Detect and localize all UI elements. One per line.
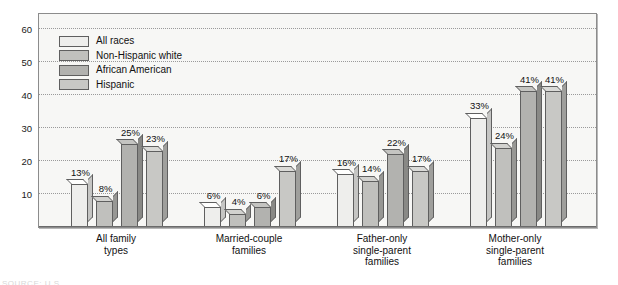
bar [520, 91, 537, 227]
x-category-label-line: families [322, 256, 442, 268]
x-category-label-line: single-parent [455, 245, 575, 257]
bar-side-face [163, 141, 168, 222]
bar-front-face [204, 207, 221, 227]
bar [387, 154, 404, 227]
y-tick-label: 10 [2, 190, 32, 200]
x-category-label-line: All family [56, 233, 176, 245]
bar [71, 184, 88, 227]
bar [121, 144, 138, 227]
bar-value-label: 41% [516, 75, 543, 85]
bar-front-face [279, 171, 296, 227]
bar-value-label: 6% [250, 191, 277, 201]
bar-value-label: 25% [117, 128, 144, 138]
y-tick-label: 60 [2, 25, 32, 35]
bar-value-label: 33% [466, 101, 493, 111]
legend-label-all-races: All races [96, 36, 134, 46]
bar-side-face [271, 197, 276, 222]
bar-front-face [495, 148, 512, 227]
bar-front-face [520, 91, 537, 227]
x-category-label: Father-onlysingle-parentfamilies [322, 233, 442, 268]
bar-side-face [296, 161, 301, 222]
x-category-label-line: single-parent [322, 245, 442, 257]
gridline [39, 94, 596, 95]
legend-item: Non-Hispanic white [59, 49, 182, 64]
x-category-label-line: Married-couple [189, 233, 309, 245]
bar-chart: 102030405060 13%8%25%23%6%4%6%17%16%14%2… [0, 0, 618, 285]
bar-value-label: 14% [358, 164, 385, 174]
bar-value-label: 22% [383, 138, 410, 148]
y-tick-label: 40 [2, 91, 32, 101]
bar-side-face [379, 171, 384, 222]
bar-side-face [429, 161, 434, 222]
bar-side-face [562, 81, 567, 222]
bar-front-face [96, 201, 113, 227]
legend-swatch-non-hispanic-white [59, 50, 89, 61]
legend: All races Non-Hispanic white African Ame… [59, 34, 182, 92]
legend-item: Hispanic [59, 78, 182, 93]
bar [495, 148, 512, 227]
x-axis-baseline [39, 226, 596, 227]
bar-value-label: 16% [333, 158, 360, 168]
x-category-label: Married-couplefamilies [189, 233, 309, 256]
bar-value-label: 24% [491, 131, 518, 141]
plot-frame: 13%8%25%23%6%4%6%17%16%14%22%17%33%24%41… [38, 13, 597, 228]
bar-value-label: 17% [408, 154, 435, 164]
x-category-label-line: types [56, 245, 176, 257]
bar-value-label: 17% [275, 154, 302, 164]
bar-front-face [121, 144, 138, 227]
bar-front-face [387, 154, 404, 227]
bar-side-face [487, 108, 492, 222]
bar-value-label: 41% [541, 75, 568, 85]
bar-side-face [113, 191, 118, 222]
legend-label-african-american: African American [96, 65, 172, 75]
bar-front-face [545, 91, 562, 227]
bar-front-face [146, 151, 163, 227]
bar-front-face [470, 118, 487, 227]
gridline [39, 28, 596, 29]
x-category-label-line: Mother-only [455, 233, 575, 245]
bar-value-label: 13% [67, 168, 94, 178]
legend-label-non-hispanic-white: Non-Hispanic white [96, 51, 182, 61]
bar-front-face [254, 207, 271, 227]
bar [412, 171, 429, 227]
bar [470, 118, 487, 227]
bar-front-face [337, 174, 354, 227]
bar-front-face [71, 184, 88, 227]
y-tick-label: 30 [2, 124, 32, 134]
bar [254, 207, 271, 227]
bar [362, 181, 379, 227]
bar [337, 174, 354, 227]
bar-value-label: 8% [92, 184, 119, 194]
bar [279, 171, 296, 227]
y-tick-label: 20 [2, 157, 32, 167]
bar-value-label: 6% [200, 191, 227, 201]
x-category-label-line: families [189, 245, 309, 257]
legend-swatch-hispanic [59, 79, 89, 90]
bar [545, 91, 562, 227]
legend-item: African American [59, 63, 182, 78]
legend-swatch-african-american [59, 65, 89, 76]
y-tick-label: 50 [2, 58, 32, 68]
bar [204, 207, 221, 227]
legend-label-hispanic: Hispanic [96, 80, 134, 90]
legend-swatch-all-races [59, 36, 89, 47]
bar-front-face [362, 181, 379, 227]
x-category-label: All familytypes [56, 233, 176, 256]
bar [146, 151, 163, 227]
legend-item: All races [59, 34, 182, 49]
bar-front-face [412, 171, 429, 227]
bar-value-label: 23% [142, 134, 169, 144]
x-category-label: Mother-onlysingle-parentfamilies [455, 233, 575, 268]
x-category-label-line: Father-only [322, 233, 442, 245]
bar [96, 201, 113, 227]
bar-value-label: 4% [225, 197, 252, 207]
source-note: SOURCE: U.S. [2, 279, 62, 285]
bar-side-face [537, 81, 542, 222]
x-category-label-line: families [455, 256, 575, 268]
bar-side-face [512, 138, 517, 222]
